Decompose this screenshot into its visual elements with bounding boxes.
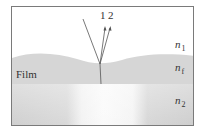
ray-2-label: 2 [108, 10, 114, 21]
ray-2-line [100, 28, 110, 64]
ray-2-arrow-icon [109, 26, 112, 31]
ray-1-line [100, 28, 105, 64]
ray-1-arrow-icon [104, 26, 107, 31]
nf-label: nf [175, 62, 184, 73]
film-layer [12, 54, 194, 84]
incident-ray [83, 19, 100, 64]
n1-label: n1 [175, 39, 186, 50]
arrowheads [104, 26, 112, 31]
ray-1-label: 1 [100, 10, 106, 21]
n2-label: n2 [175, 95, 186, 106]
diagram-frame [11, 6, 194, 126]
thin-film-scene [12, 7, 194, 126]
film-label: Film [16, 69, 37, 80]
